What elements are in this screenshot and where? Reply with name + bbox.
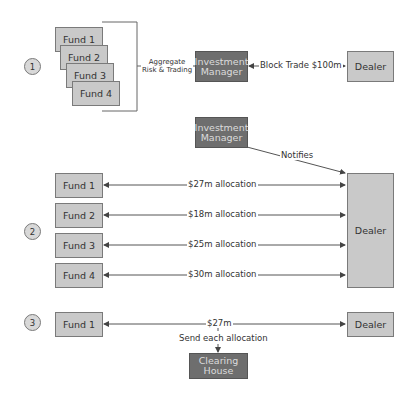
block-trade-label: Block Trade $100m	[259, 61, 343, 70]
clearing-line2: House	[204, 366, 234, 376]
allocation-label-2: $18m allocation	[187, 210, 258, 219]
step3-dealer: Dealer	[347, 312, 394, 337]
step3-amount-label: $27m	[206, 319, 233, 328]
clearing-house: Clearing House	[189, 353, 248, 379]
notifies-label: Notifies	[280, 151, 314, 160]
aggregate-risk-label: Aggregate Risk & Trading	[141, 58, 193, 74]
step2-dealer: Dealer	[347, 173, 394, 288]
step2-fund-4: Fund 4	[55, 263, 103, 288]
im2-line2: Manager	[201, 133, 243, 143]
allocation-label-1: $27m allocation	[187, 180, 258, 189]
step3-fund-1: Fund 1	[55, 312, 103, 337]
step-2-marker: 2	[24, 223, 41, 240]
aggregate-label-line2: Risk & Trading	[142, 66, 192, 74]
im-line1: Investment	[195, 57, 249, 67]
allocation-label-3: $25m allocation	[187, 240, 258, 249]
step2-investment-manager: Investment Manager	[195, 117, 248, 148]
step-3-marker: 3	[24, 314, 41, 331]
im-line2: Manager	[201, 67, 243, 77]
step1-dealer: Dealer	[347, 51, 394, 82]
step2-fund-3: Fund 3	[55, 233, 103, 258]
allocation-label-4: $30m allocation	[187, 270, 258, 279]
step2-fund-1: Fund 1	[55, 173, 103, 198]
step2-fund-2: Fund 2	[55, 203, 103, 228]
aggregate-label-line1: Aggregate	[142, 58, 192, 66]
step1-investment-manager: Investment Manager	[195, 51, 248, 82]
im2-line1: Investment	[195, 123, 249, 133]
send-allocation-label: Send each allocation	[178, 334, 269, 343]
step1-fund-4: Fund 4	[72, 81, 120, 106]
step-1-marker: 1	[24, 58, 41, 75]
